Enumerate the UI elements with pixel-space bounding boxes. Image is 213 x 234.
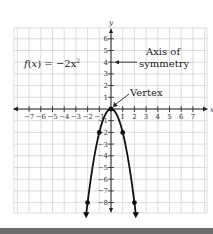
x-tick-label: 7 bbox=[191, 113, 195, 121]
y-tick-label: −6 bbox=[98, 176, 109, 184]
x-tick-label: −4 bbox=[59, 113, 70, 121]
x-tick-label: 2 bbox=[132, 113, 136, 121]
axis-of-symmetry-pointer-arrowhead bbox=[114, 60, 119, 64]
x-tick-label: 4 bbox=[156, 113, 161, 121]
function-label-exponent: 2 bbox=[76, 57, 80, 64]
x-tick-label: 1 bbox=[120, 113, 124, 121]
y-tick-label: −3 bbox=[98, 141, 108, 149]
footer-bar bbox=[0, 228, 213, 234]
curve-arrow-left bbox=[83, 212, 89, 218]
data-point bbox=[109, 107, 114, 112]
y-axis-arrow-up bbox=[109, 28, 113, 33]
y-tick-label: 3 bbox=[104, 70, 108, 78]
y-tick-label: −4 bbox=[98, 152, 109, 160]
x-tick-label: −3 bbox=[71, 113, 81, 121]
y-tick-label: −5 bbox=[98, 164, 108, 172]
x-tick-label: −7 bbox=[24, 113, 34, 121]
axis-of-symmetry-label-line1: Axis of bbox=[145, 46, 181, 57]
data-point bbox=[85, 200, 90, 205]
y-axis-label: y bbox=[108, 19, 114, 27]
y-tick-label: 1 bbox=[104, 94, 108, 102]
curve-arrow-right bbox=[133, 212, 139, 218]
y-tick-label: 4 bbox=[104, 59, 109, 67]
vertex-label: Vertex bbox=[129, 87, 163, 98]
data-point bbox=[132, 200, 137, 205]
x-tick-label: 3 bbox=[144, 113, 148, 121]
x-tick-label: 6 bbox=[179, 113, 184, 121]
x-tick-label: −5 bbox=[47, 113, 57, 121]
y-tick-label: −7 bbox=[98, 187, 108, 195]
y-tick-label: 2 bbox=[104, 82, 108, 90]
data-point bbox=[97, 130, 102, 135]
y-tick-label: 6 bbox=[104, 35, 109, 43]
x-tick-label: −6 bbox=[36, 113, 47, 121]
x-tick-label: −2 bbox=[82, 113, 92, 121]
y-tick-label: −8 bbox=[98, 199, 108, 207]
y-tick-label: 5 bbox=[104, 47, 108, 55]
x-axis-label: x bbox=[210, 106, 213, 114]
axis-of-symmetry-label-line2: symmetry bbox=[139, 58, 189, 69]
data-point bbox=[120, 130, 125, 135]
y-axis-arrow-down bbox=[109, 208, 113, 213]
function-label-rhs: = −2x bbox=[44, 58, 76, 69]
x-tick-label: 5 bbox=[167, 113, 171, 121]
parabola-chart: xy −7−6−5−4−3−2−11234567654321−1−2−3−4−5… bbox=[0, 0, 213, 234]
function-label: f(x) = −2x2 bbox=[23, 57, 80, 69]
annotation-pointers bbox=[113, 60, 137, 107]
